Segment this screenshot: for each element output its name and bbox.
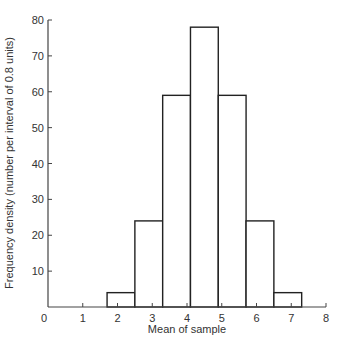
histogram-bar — [135, 221, 163, 307]
y-tick-label: 80 — [32, 14, 44, 26]
histogram-bar — [163, 95, 191, 307]
y-axis-ticks: 1020304050607080 — [32, 14, 52, 277]
histogram-bar — [190, 27, 218, 307]
y-tick-label: 70 — [32, 50, 44, 62]
histogram-bar — [246, 221, 274, 307]
x-tick-label: 2 — [114, 312, 120, 324]
x-axis-title: Mean of sample — [148, 323, 226, 335]
y-tick-label: 50 — [32, 122, 44, 134]
y-tick-label: 10 — [32, 265, 44, 277]
x-tick-label: 8 — [323, 312, 329, 324]
histogram-chart: 1020304050607080 012345678 Mean of sampl… — [0, 0, 346, 346]
y-tick-label: 30 — [32, 193, 44, 205]
histogram-bars — [107, 27, 302, 307]
histogram-bar — [274, 293, 302, 307]
histogram-bar — [107, 293, 135, 307]
y-axis-title: Frequency density (number per interval o… — [3, 37, 15, 289]
x-tick-label: 1 — [80, 312, 86, 324]
y-tick-label: 40 — [32, 158, 44, 170]
histogram-bar — [218, 95, 246, 307]
x-tick-label: 0 — [41, 312, 47, 324]
y-tick-label: 20 — [32, 229, 44, 241]
y-tick-label: 60 — [32, 86, 44, 98]
x-tick-label: 6 — [253, 312, 259, 324]
x-tick-label: 7 — [288, 312, 294, 324]
